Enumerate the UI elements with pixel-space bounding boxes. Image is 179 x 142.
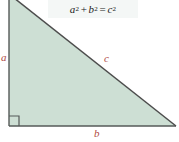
equation-equals-operator: = [98, 3, 107, 15]
side-label-a: a [1, 52, 7, 63]
equation-container: a2+b2=c2 [48, 0, 138, 18]
side-label-b: b [94, 128, 100, 139]
pythagorean-equation: a2+b2=c2 [48, 0, 138, 18]
equation-term-c-base: c [107, 3, 112, 15]
equation-plus-operator: + [79, 3, 88, 15]
pythagorean-theorem-figure: a c b a2+b2=c2 [0, 0, 179, 142]
side-label-c: c [104, 53, 109, 64]
triangle-graphic [0, 0, 179, 142]
